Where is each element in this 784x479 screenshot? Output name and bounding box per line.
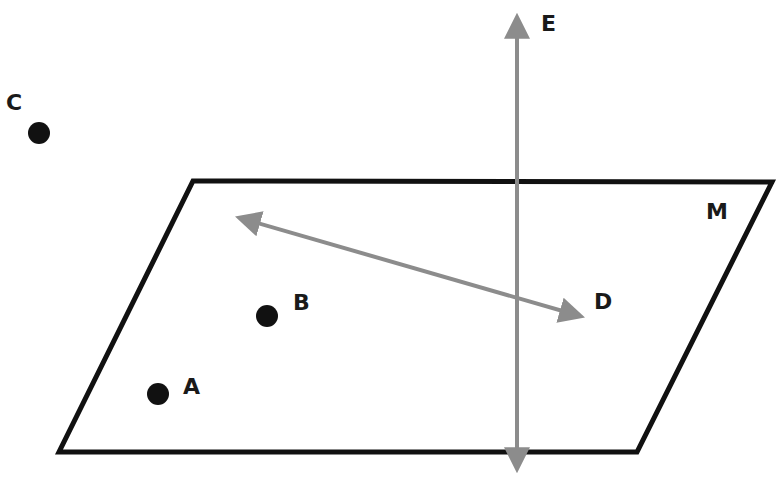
point-label-b: B xyxy=(293,290,310,315)
plane-m xyxy=(59,181,772,452)
point-c xyxy=(28,122,50,144)
point-label-c: C xyxy=(6,90,22,115)
diagram-canvas: M D E A B C xyxy=(0,0,784,479)
line-d xyxy=(240,218,580,316)
line-label-d: D xyxy=(594,289,612,314)
line-label-e: E xyxy=(541,11,556,36)
point-a xyxy=(147,383,169,405)
plane-label-m: M xyxy=(706,199,728,224)
point-label-a: A xyxy=(183,374,200,399)
point-b xyxy=(256,305,278,327)
